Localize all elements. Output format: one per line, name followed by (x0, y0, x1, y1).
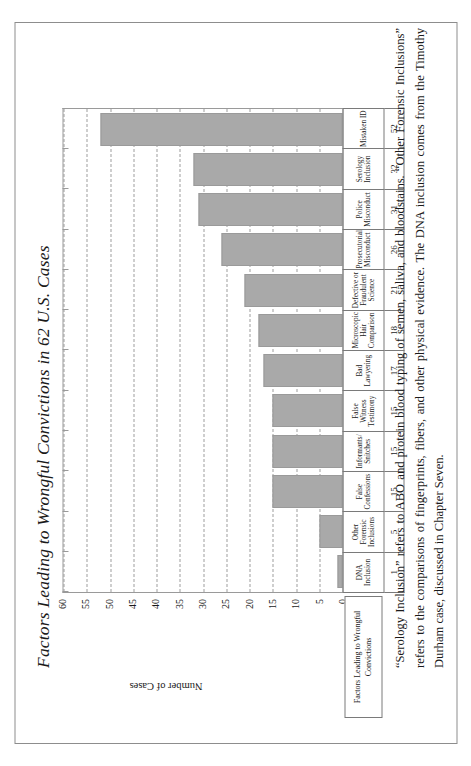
bar-cell (63, 230, 342, 270)
y-axis: 605550454035302520151050 (62, 597, 342, 631)
bar (193, 153, 342, 186)
bar (100, 113, 342, 146)
table-cell-category: False Confessions (343, 472, 384, 512)
table-cell-category: Informants/ Snitches (343, 431, 384, 471)
plot-area (62, 108, 342, 593)
bar-cell (63, 512, 342, 552)
table-cell-category: Serology Inclusion (343, 149, 384, 189)
y-tick-label: 60 (57, 599, 68, 633)
y-tick-label: 30 (197, 599, 208, 633)
y-tick-label: 20 (243, 599, 254, 633)
figure-container: Factors Leading to Wrongful Convictions … (26, 36, 446, 726)
bar-cell (63, 431, 342, 471)
table-cell-category: False Witness Testimony (343, 391, 384, 431)
table-cell-category: Bad Lawyering (343, 351, 384, 391)
y-tick-label: 25 (220, 599, 231, 633)
bar-cell (63, 270, 342, 310)
bar-cell (63, 471, 342, 511)
bar (272, 435, 342, 468)
bar-cell (63, 391, 342, 431)
bar-series (63, 109, 342, 592)
figure-caption: “Serology Inclusion” refers to ABO and p… (390, 28, 449, 668)
y-tick-label: 10 (290, 599, 301, 633)
bar (272, 394, 342, 427)
bar-cell (63, 310, 342, 350)
figure-page: Factors Leading to Wrongful Convictions … (0, 0, 471, 766)
table-row-categories: DNA InclusionOther Forensic InclusionsFa… (343, 109, 384, 593)
table-cell-category: Mistaken ID (343, 109, 384, 149)
bar-cell (63, 351, 342, 391)
bar (319, 515, 342, 548)
x-axis-title-tag: Factors Leading to Wrongful Convictions (344, 596, 382, 718)
table-cell-category: Other Forensic Inclusions (343, 512, 384, 552)
figure-title: Factors Leading to Wrongful Convictions … (32, 245, 53, 668)
bar-cell (63, 552, 342, 592)
table-cell-category: Defective or Fraudulent Science (343, 270, 384, 310)
bar-cell (63, 109, 342, 149)
y-tick-label: 5 (313, 599, 324, 633)
bar (258, 314, 342, 347)
bar-cell (63, 190, 342, 230)
bar (198, 193, 342, 226)
bar (272, 475, 342, 508)
y-tick-label: 55 (80, 599, 91, 633)
y-axis-label: Number of Cases (129, 681, 202, 692)
bar (221, 233, 342, 266)
y-tick-label: 35 (173, 599, 184, 633)
bar-cell (63, 149, 342, 189)
y-tick-label: 50 (103, 599, 114, 633)
bar (337, 555, 342, 588)
y-tick-label: 15 (267, 599, 278, 633)
bar (263, 354, 342, 387)
table-cell-category: Microscopic Hair Comparison (343, 310, 384, 350)
bar (244, 274, 342, 307)
table-cell-category: Police Misconduct (343, 189, 384, 229)
table-cell-category: DNA Inclusion (343, 552, 384, 592)
y-tick-label: 45 (127, 599, 138, 633)
table-cell-category: Prosecutorial Misconduct (343, 230, 384, 270)
y-tick-label: 40 (150, 599, 161, 633)
